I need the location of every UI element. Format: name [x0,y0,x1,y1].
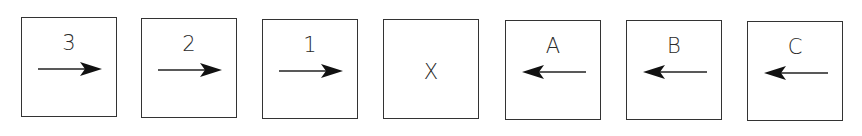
arrow-right-icon [158,63,222,77]
box-c: C [747,21,843,121]
box-3: 3 [21,17,117,117]
arrow-right-icon [279,64,343,78]
box-a: A [505,20,601,120]
box-2: 2 [141,18,237,118]
arrow-left-icon [643,65,707,79]
box-label: 1 [263,33,357,57]
box-label: C [748,35,842,59]
box-label: B [627,34,721,58]
box-label: A [506,34,600,58]
arrow-right-icon [38,62,102,76]
box-label: 2 [142,32,236,56]
box-b: B [626,20,722,120]
box-label: X [384,60,478,84]
arrow-left-icon [522,65,586,79]
box-label: 3 [22,31,116,55]
box-x: X [383,19,479,119]
arrow-left-icon [764,66,828,80]
box-1: 1 [262,19,358,119]
